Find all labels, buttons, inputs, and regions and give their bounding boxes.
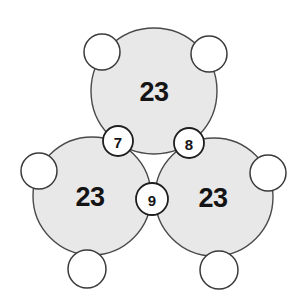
outer-node-left[interactable] (21, 153, 57, 189)
outer-node-right[interactable] (250, 155, 286, 191)
outer-node-bottom-right[interactable] (200, 251, 238, 289)
puzzle-diagram: 23 23 23 7 8 9 (0, 0, 306, 301)
outer-node-top-right[interactable] (191, 36, 227, 72)
outer-node-top-left[interactable] (84, 34, 120, 70)
big-circle-bottom-left-label: 23 (75, 182, 105, 212)
junction-node-7-label: 7 (114, 134, 122, 151)
big-circle-top-label: 23 (139, 77, 169, 107)
outer-node-bottom-left[interactable] (68, 250, 106, 288)
junction-node-8-label: 8 (185, 136, 193, 153)
big-circle-bottom-right-label: 23 (198, 183, 228, 213)
puzzle-diagram-container: 23 23 23 7 8 9 (0, 0, 306, 301)
junction-node-9-label: 9 (148, 192, 156, 209)
big-circle-group (33, 28, 273, 256)
